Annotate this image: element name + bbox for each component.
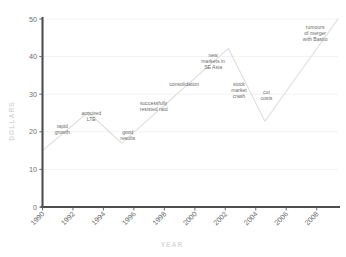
annotation-resisted-raid: successfullyresisted raid [140, 100, 168, 112]
y-tick-label: 30 [29, 90, 37, 99]
annotation-consolidation: consolidation [169, 81, 199, 87]
annotation-rapid-growth: rapidgrowth [55, 123, 70, 135]
chart-canvas: 01020304050 1990199219941996199820002002… [0, 0, 346, 257]
y-tick-label: 50 [29, 15, 37, 24]
annotation-stock-market-crash: stockmarketcrash [231, 81, 247, 99]
line-chart: 01020304050 1990199219941996199820002002… [0, 0, 346, 257]
annotation-good-results: goodresults [120, 129, 135, 141]
y-axis-title: DOLLARS [8, 101, 15, 141]
y-tick-label: 0 [33, 203, 37, 212]
y-tick-label: 20 [29, 127, 37, 136]
chart-background [0, 0, 346, 257]
y-tick-label: 10 [29, 165, 37, 174]
x-axis-title: YEAR [161, 241, 184, 248]
y-tick-label: 40 [29, 52, 37, 61]
annotation-rumours-of-merger: rumoursof mergerwith Bastio [303, 24, 328, 42]
